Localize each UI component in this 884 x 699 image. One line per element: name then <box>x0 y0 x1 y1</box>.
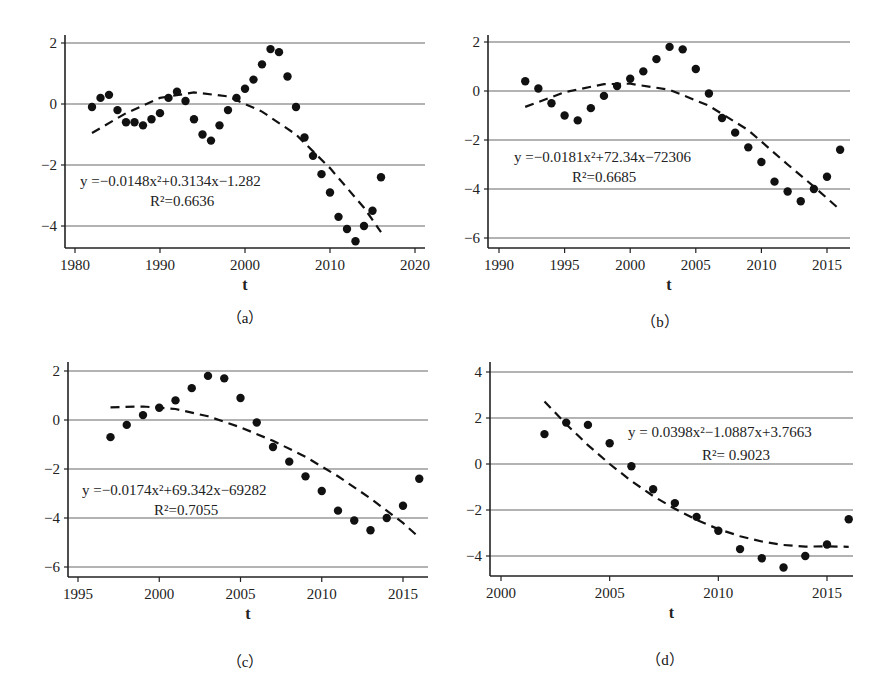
x-tick-label: 1990 <box>145 257 175 273</box>
panel-b: 20−2−4−6199019952000200520102015ty =−0.0… <box>440 0 884 340</box>
trend-line <box>92 92 381 232</box>
x-tick-label: 2015 <box>812 585 842 601</box>
data-point <box>736 545 744 553</box>
data-point <box>106 433 114 441</box>
equation-label: y =−0.0181x²+72.34x−72306 <box>514 149 692 165</box>
x-tick-label: 2000 <box>230 257 260 273</box>
data-point <box>534 84 542 92</box>
data-point <box>823 173 831 181</box>
y-tick-label: 4 <box>475 364 483 380</box>
y-tick-label: −4 <box>41 218 57 234</box>
data-point <box>220 374 228 382</box>
data-point <box>758 554 766 562</box>
data-point <box>343 225 351 233</box>
caption-d: （d） <box>635 648 695 669</box>
data-point <box>351 237 359 245</box>
data-point <box>639 67 647 75</box>
data-point <box>224 106 232 114</box>
data-point <box>671 499 679 507</box>
data-point <box>122 118 130 126</box>
data-point <box>521 77 529 85</box>
data-point <box>415 475 423 483</box>
data-point <box>269 443 277 451</box>
data-point <box>714 527 722 535</box>
data-point <box>130 118 138 126</box>
y-tick-label: 0 <box>475 456 483 472</box>
data-point <box>156 109 164 117</box>
x-tick-label: 2005 <box>681 257 711 273</box>
data-point <box>241 85 249 93</box>
x-tick-label: 2000 <box>615 257 645 273</box>
data-point <box>845 515 853 523</box>
data-point <box>326 188 334 196</box>
data-point <box>258 60 266 68</box>
x-tick-label: 2000 <box>486 585 516 601</box>
y-tick-label: −4 <box>464 181 480 197</box>
y-tick-label: 0 <box>473 83 481 99</box>
x-tick-label: 2005 <box>226 586 256 602</box>
data-point <box>692 65 700 73</box>
equation-label: y =−0.0174x²+69.342x−69282 <box>82 482 267 498</box>
data-point <box>88 103 96 111</box>
y-tick-label: 2 <box>53 363 61 379</box>
data-point <box>232 94 240 102</box>
data-point <box>181 97 189 105</box>
data-point <box>285 457 293 465</box>
caption-b: （b） <box>630 310 690 331</box>
data-point <box>215 121 223 129</box>
x-axis-label: t <box>245 605 251 622</box>
data-point <box>649 485 657 493</box>
x-tick-label: 1995 <box>63 586 93 602</box>
panel-c: 20−2−4−619952000200520102015ty =−0.0174x… <box>0 340 440 699</box>
y-tick-label: −2 <box>464 132 480 148</box>
data-point <box>139 411 147 419</box>
data-point <box>139 121 147 129</box>
equation-label: y = 0.0398x²−1.0887x+3.7663 <box>628 424 812 440</box>
x-tick-label: 2010 <box>307 586 337 602</box>
data-point <box>744 143 752 151</box>
data-point <box>147 115 155 123</box>
data-point <box>366 526 374 534</box>
data-point <box>600 92 608 100</box>
data-point <box>334 213 342 221</box>
equation-label: y =−0.0148x²+0.3134x−1.282 <box>80 173 261 189</box>
data-point <box>547 99 555 107</box>
data-point <box>678 45 686 53</box>
x-axis-label: t <box>666 276 672 293</box>
data-point <box>334 506 342 514</box>
data-point <box>560 111 568 119</box>
data-point <box>801 552 809 560</box>
data-point <box>587 104 595 112</box>
x-tick-label: 2015 <box>812 257 842 273</box>
data-point <box>783 187 791 195</box>
chart-d-svg: 420−2−42000200520102015ty = 0.0398x²−1.0… <box>440 340 884 699</box>
data-point <box>584 421 592 429</box>
x-tick-label: 2010 <box>315 257 345 273</box>
y-tick-label: 2 <box>50 35 58 51</box>
data-point <box>105 91 113 99</box>
data-point <box>779 563 787 571</box>
data-point <box>207 136 215 144</box>
data-point <box>275 48 283 56</box>
data-point <box>627 462 635 470</box>
data-point <box>317 170 325 178</box>
data-point <box>360 222 368 230</box>
data-point <box>283 72 291 80</box>
data-point <box>613 82 621 90</box>
y-tick-label: −2 <box>44 461 60 477</box>
y-tick-label: 0 <box>50 96 58 112</box>
trend-line <box>525 84 840 210</box>
data-point <box>665 43 673 51</box>
data-point <box>292 103 300 111</box>
data-point <box>266 45 274 53</box>
data-point <box>113 106 121 114</box>
x-tick-label: 2000 <box>144 586 174 602</box>
data-point <box>383 514 391 522</box>
data-point <box>718 114 726 122</box>
data-point <box>309 152 317 160</box>
data-point <box>300 133 308 141</box>
y-tick-label: −2 <box>466 502 482 518</box>
chart-c-svg: 20−2−4−619952000200520102015ty =−0.0174x… <box>0 340 440 699</box>
y-tick-label: 0 <box>53 412 61 428</box>
x-tick-label: 2010 <box>703 585 733 601</box>
